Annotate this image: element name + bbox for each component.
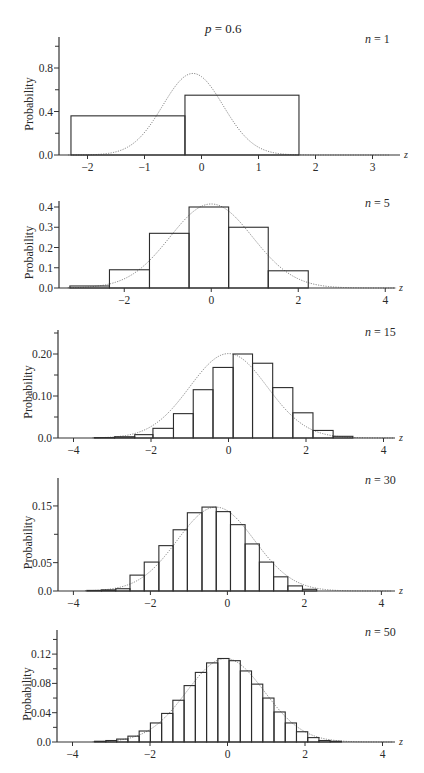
- y-axis-label: Probability: [21, 365, 35, 418]
- y-axis-label: Probability: [20, 667, 34, 720]
- y-tick-label: 0.4: [39, 201, 54, 213]
- histogram-bar: [252, 684, 263, 742]
- histogram-bar: [293, 413, 313, 438]
- x-tick-label: −4: [66, 748, 78, 760]
- x-axis-label: z: [398, 282, 403, 293]
- y-tick-label: 0.15: [32, 500, 52, 512]
- panel-title: n = 1: [365, 32, 390, 46]
- histogram-bar: [185, 95, 299, 155]
- panel-n-50: z0.00.040.080.12−4−2024Probabilityn = 50: [20, 625, 403, 760]
- histogram-bar: [273, 388, 293, 438]
- x-tick-label: −4: [67, 444, 79, 456]
- panel-n-15: z0.00.100.20−4−2024Probabilityn = 15: [21, 325, 403, 456]
- y-axis-label: Probability: [21, 516, 35, 569]
- normal-curve: [68, 204, 396, 288]
- histogram-bar: [229, 661, 240, 742]
- histogram-bar: [285, 723, 296, 742]
- histogram-bar: [216, 512, 230, 591]
- panel-title: n = 30: [365, 473, 396, 487]
- histogram-bar: [153, 428, 174, 438]
- figure-title: p = 0.6: [205, 21, 242, 37]
- x-tick-label: 2: [302, 597, 308, 609]
- figure: p = 0.6 z0.00.40.8−2−10123Probabilityn =…: [0, 0, 424, 773]
- x-tick-label: −2: [81, 161, 93, 173]
- histogram-bar: [230, 525, 245, 591]
- histogram-bar: [189, 207, 229, 288]
- panel-n-30: z0.00.050.15−4−2024Probabilityn = 30: [21, 473, 403, 609]
- x-tick-label: 2: [303, 444, 309, 456]
- histogram-stack: z0.00.40.8−2−10123Probabilityn = 1z0.00.…: [0, 0, 424, 773]
- y-tick-label: 0.0: [38, 432, 53, 444]
- histogram-bar: [193, 390, 213, 438]
- histogram-bar: [159, 546, 173, 591]
- x-tick-label: −2: [118, 294, 130, 306]
- histogram-bar: [245, 544, 259, 591]
- x-axis-label: z: [398, 736, 403, 747]
- histogram-bar: [149, 233, 189, 288]
- panel-n-1: z0.00.40.8−2−10123Probabilityn = 1: [22, 32, 408, 173]
- x-tick-label: 1: [256, 161, 262, 173]
- histogram-bar: [184, 686, 195, 742]
- x-tick-label: −4: [67, 597, 79, 609]
- title-value: 0.6: [225, 21, 241, 36]
- x-tick-label: 0: [225, 748, 231, 760]
- normal-curve: [92, 354, 393, 438]
- y-tick-label: 0.0: [39, 282, 54, 294]
- y-axis-label: Probability: [22, 226, 36, 279]
- x-tick-label: 3: [370, 161, 376, 173]
- y-tick-label: 0.0: [39, 149, 54, 161]
- normal-curve: [85, 507, 391, 591]
- x-tick-label: 4: [379, 597, 385, 609]
- panel-title: n = 15: [365, 325, 396, 339]
- x-tick-label: 4: [382, 294, 388, 306]
- histogram-bar: [207, 663, 218, 742]
- histogram-bar: [240, 671, 251, 742]
- panel-title: n = 5: [365, 196, 390, 210]
- histogram-bar: [71, 116, 185, 155]
- histogram-bar: [259, 562, 273, 591]
- x-tick-label: 4: [380, 748, 386, 760]
- histogram-bar: [202, 507, 216, 591]
- histogram-bar: [253, 363, 273, 438]
- histogram-bar: [173, 530, 187, 591]
- x-axis-label: z: [403, 149, 408, 160]
- y-axis-label: Probability: [22, 77, 36, 130]
- histogram-bar: [308, 738, 319, 742]
- histogram-bar: [229, 227, 269, 288]
- histogram-bar: [150, 723, 161, 742]
- histogram-bar: [288, 586, 303, 591]
- x-tick-label: 2: [302, 748, 308, 760]
- x-tick-label: 0: [199, 161, 205, 173]
- normal-curve: [68, 73, 389, 155]
- x-axis-label: z: [398, 585, 403, 596]
- histogram-bar: [296, 732, 307, 742]
- title-param: p: [205, 21, 212, 36]
- histogram-bar: [144, 562, 159, 591]
- x-tick-label: 2: [313, 161, 319, 173]
- panel-n-5: z0.00.10.20.30.4−2024Probabilityn = 5: [22, 196, 403, 306]
- x-tick-label: −2: [144, 597, 156, 609]
- x-tick-label: 4: [381, 444, 387, 456]
- histogram-bar: [195, 672, 206, 742]
- histogram-bar: [162, 713, 173, 742]
- x-tick-label: −2: [145, 444, 157, 456]
- y-tick-label: 0.20: [32, 348, 52, 360]
- x-tick-label: 2: [295, 294, 301, 306]
- x-tick-label: −2: [144, 748, 156, 760]
- histogram-bar: [274, 577, 288, 591]
- y-tick-label: 0.4: [39, 106, 54, 118]
- y-tick-label: 0.8: [39, 62, 54, 74]
- histogram-bar: [128, 736, 139, 742]
- histogram-bar: [109, 270, 149, 288]
- y-tick-label: 0.1: [39, 262, 54, 274]
- histogram-bar: [218, 659, 229, 743]
- y-tick-label: 0.2: [39, 242, 54, 254]
- histogram-bar: [274, 712, 285, 742]
- y-tick-label: 0.0: [37, 736, 52, 748]
- histogram-bar: [233, 354, 252, 438]
- y-tick-label: 0.0: [38, 585, 53, 597]
- panel-title: n = 50: [365, 625, 396, 639]
- x-axis-label: z: [398, 432, 403, 443]
- x-tick-label: −1: [138, 161, 150, 173]
- x-tick-label: 0: [225, 597, 231, 609]
